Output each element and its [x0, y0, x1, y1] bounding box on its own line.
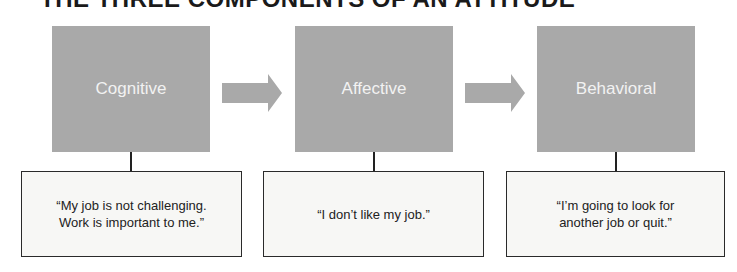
connector-line	[130, 152, 132, 171]
connector-line	[373, 152, 375, 171]
arrow-right-icon	[222, 74, 282, 112]
cognitive-quote: “My job is not challenging. Work is impo…	[56, 197, 206, 231]
connector-line	[615, 152, 617, 171]
diagram-title: THE THREE COMPONENTS OF AN ATTITUDE	[40, 0, 575, 13]
behavioral-quote: “I’m going to look for another job or qu…	[557, 197, 675, 231]
cognitive-quote-box: “My job is not challenging. Work is impo…	[21, 171, 242, 257]
affective-quote: “I don’t like my job.”	[317, 206, 430, 223]
affective-box: Affective	[295, 26, 453, 152]
cognitive-label: Cognitive	[96, 79, 167, 99]
cognitive-box: Cognitive	[52, 26, 210, 152]
affective-quote-box: “I don’t like my job.”	[263, 171, 484, 257]
behavioral-quote-box: “I’m going to look for another job or qu…	[506, 171, 725, 257]
behavioral-label: Behavioral	[576, 79, 656, 99]
behavioral-box: Behavioral	[537, 26, 695, 152]
arrow-right-icon	[465, 74, 525, 112]
affective-label: Affective	[342, 79, 407, 99]
